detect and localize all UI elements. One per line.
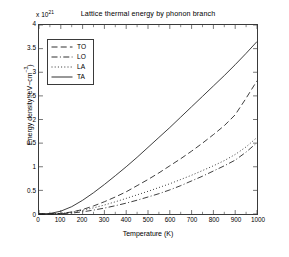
x-axis-tick-label: 400 xyxy=(121,217,132,223)
legend-item-la[interactable]: LA xyxy=(50,62,91,72)
y-axis-tick-label: 0 xyxy=(18,212,36,218)
x-axis-tick-label: 500 xyxy=(143,217,154,223)
y-axis-title-main: Energy density (eV xyxy=(26,86,33,145)
x-axis-tick-labels: 01002003004005006007008009001000 xyxy=(38,217,258,229)
y-axis-multiplier-base: x 10 xyxy=(36,11,48,18)
legend-line-sample-ta xyxy=(50,73,74,81)
x-axis-tick-label: 600 xyxy=(165,217,176,223)
x-axis-tick-label: 100 xyxy=(55,217,66,223)
legend: TOLOLATA xyxy=(47,39,94,85)
figure-canvas: Lattice thermal energy by phonon branch … xyxy=(0,0,289,257)
x-axis-tick-label: 800 xyxy=(209,217,220,223)
x-axis-tick-label: 200 xyxy=(77,217,88,223)
legend-label: TO xyxy=(74,43,86,51)
legend-item-to[interactable]: TO xyxy=(50,42,91,52)
legend-line-sample-la xyxy=(50,63,74,71)
x-axis-tick-label: 1000 xyxy=(251,217,265,223)
legend-label: LA xyxy=(74,63,85,71)
x-axis-tick-label: 0 xyxy=(36,217,40,223)
y-axis-tick-label: 0.5 xyxy=(18,188,36,194)
series-line-la xyxy=(39,137,257,214)
legend-line-sample-lo xyxy=(50,53,74,61)
x-axis-title: Temperature (K) xyxy=(38,230,258,237)
legend-label: LO xyxy=(74,53,86,61)
legend-item-ta[interactable]: TA xyxy=(50,72,91,82)
x-axis-tick-label: 900 xyxy=(231,217,242,223)
x-axis-tick-label: 700 xyxy=(187,217,198,223)
y-axis-multiplier-label: x 1021 xyxy=(36,10,54,18)
x-axis-tick-label: 300 xyxy=(99,217,110,223)
y-axis-title: Energy density (eV−cm−3) xyxy=(23,25,32,185)
y-axis-title-unit: cm xyxy=(26,72,33,81)
y-axis-multiplier-exponent: 21 xyxy=(48,10,53,15)
legend-line-sample-to xyxy=(50,43,74,51)
y-axis-title-exponent: −3 xyxy=(23,67,29,73)
y-axis-title-dash: − xyxy=(26,82,33,86)
legend-label: TA xyxy=(74,73,85,81)
series-line-lo xyxy=(39,143,257,214)
chart-title: Lattice thermal energy by phonon branch xyxy=(38,9,258,18)
legend-item-lo[interactable]: LO xyxy=(50,52,91,62)
y-axis-title-paren: ) xyxy=(26,64,33,66)
